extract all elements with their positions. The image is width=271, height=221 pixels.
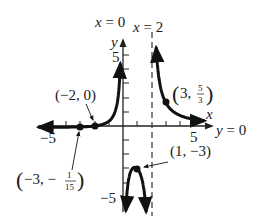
svg-text:−3, −: −3, −: [24, 171, 56, 187]
label-asymptote-y0: y = 0: [214, 122, 246, 138]
leader-1-neg3: [144, 162, 168, 167]
label-point-neg2-0: (−2, 0): [55, 87, 96, 104]
rational-function-graph: x = 0 x = 2 y = 0 y x −5 5 5 −5 (−2, 0) …: [0, 0, 271, 221]
svg-text:(: (: [172, 81, 179, 106]
axis-label-y: y: [109, 34, 118, 50]
tick-label-x-neg5: −5: [40, 130, 56, 146]
tick-label-y-neg5: −5: [100, 190, 116, 206]
svg-text:1: 1: [67, 170, 72, 180]
point-1-neg3: [134, 166, 141, 173]
svg-text:3: 3: [198, 95, 203, 105]
axis-label-x: x: [205, 106, 213, 122]
svg-text:15: 15: [65, 182, 75, 192]
leader-neg2-0: [86, 104, 93, 120]
tick-label-y-5: 5: [112, 49, 120, 65]
leader-neg3: [72, 132, 79, 170]
curve-middle-branch: [126, 167, 146, 211]
svg-text:(: (: [16, 167, 23, 192]
svg-text:): ): [206, 81, 213, 106]
svg-text:5: 5: [198, 83, 203, 93]
point-3-5-3: [163, 99, 170, 106]
point-neg2-0: [92, 123, 99, 130]
label-asymptote-x0: x = 0: [94, 14, 125, 30]
svg-text:3,: 3,: [180, 85, 191, 101]
label-point-3-5-3: ( 3, 5 3 ): [172, 81, 213, 106]
label-asymptote-x2: x = 2: [132, 19, 163, 35]
svg-text:): ): [77, 167, 84, 192]
point-neg3-neg1-15: [77, 124, 84, 131]
label-point-1-neg3: (1, −3): [170, 143, 211, 160]
label-point-neg3-neg1-15: ( −3, − 1 15 ): [16, 167, 84, 192]
